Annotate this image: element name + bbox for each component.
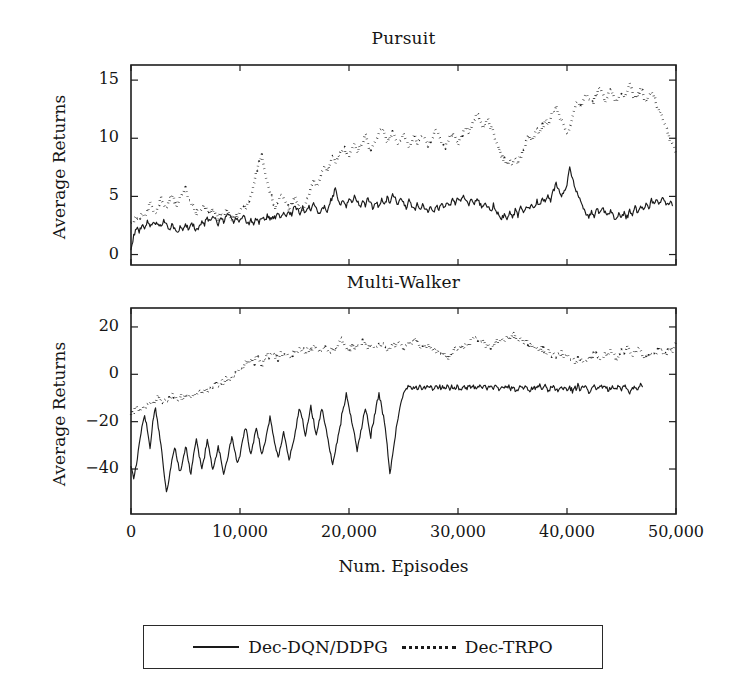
x-tick-label: 30,000 — [408, 522, 508, 541]
legend-line-sample-dotted — [402, 646, 456, 649]
plot-frame-pursuit — [131, 65, 676, 265]
legend-entry-dec-trpo: Dec-TRPO — [388, 637, 553, 657]
plot-frame-multi-walker — [131, 308, 676, 514]
x-tick-label: 0 — [81, 522, 181, 541]
legend-label-dec-trpo: Dec-TRPO — [465, 637, 553, 657]
y-tick-label: 5 — [55, 185, 119, 204]
series-line-dec-dqn-ddpg-pursuit — [131, 167, 672, 250]
y-tick-label: 10 — [55, 127, 119, 146]
legend-entry-dec-dqn-ddpg: Dec-DQN/DDPG — [193, 637, 387, 657]
legend-label-dec-dqn-ddpg: Dec-DQN/DDPG — [248, 637, 387, 657]
x-tick-label: 50,000 — [626, 522, 726, 541]
y-tick-label: −40 — [55, 458, 119, 477]
series-line-dec-trpo-multi-walker — [131, 332, 676, 415]
x-tick-label: 40,000 — [517, 522, 617, 541]
y-tick-label: 0 — [55, 244, 119, 263]
legend-line-sample-solid — [193, 646, 239, 648]
y-tick-label: −20 — [55, 411, 119, 430]
y-tick-label: 0 — [55, 363, 119, 382]
x-tick-label: 10,000 — [190, 522, 290, 541]
y-tick-label: 15 — [55, 69, 119, 88]
figure-container: Pursuit Average Returns Multi-Walker Ave… — [0, 0, 741, 698]
plot-canvas — [0, 0, 741, 698]
legend: Dec-DQN/DDPG Dec-TRPO — [143, 625, 603, 669]
y-tick-label: 20 — [55, 316, 119, 335]
series-line-dec-dqn-ddpg-multi-walker — [131, 383, 642, 492]
x-tick-label: 20,000 — [299, 522, 399, 541]
